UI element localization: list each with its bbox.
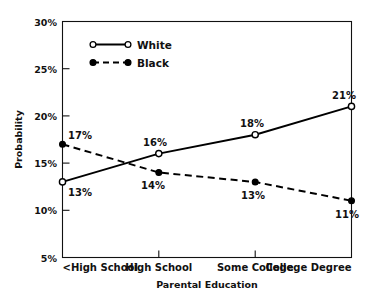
- legend-marker-white-right: [125, 42, 131, 48]
- x-axis-ticks: [159, 251, 255, 258]
- line-chart: 30% 25% 20% 15% 10% 5% Probability <High…: [0, 0, 389, 308]
- series-black-marker-1: [156, 170, 162, 176]
- value-label-black-2: 13%: [241, 190, 265, 201]
- series-black-marker-0: [60, 141, 66, 147]
- y-axis-title: Probability: [13, 109, 24, 168]
- y-tick-label-5: 5%: [41, 253, 58, 264]
- x-category-label-1: High School: [125, 262, 192, 273]
- x-category-label-3: College Degree: [265, 262, 351, 273]
- value-label-white-3: 21%: [332, 90, 356, 101]
- value-label-black-0: 17%: [68, 130, 92, 141]
- legend-label-white: White: [137, 39, 172, 51]
- series-black-line: [63, 144, 352, 201]
- value-label-black-1: 14%: [141, 180, 165, 191]
- series-white: [59, 103, 354, 185]
- legend-entry-white[interactable]: White: [90, 39, 172, 51]
- chart-canvas: 30% 25% 20% 15% 10% 5% Probability <High…: [0, 0, 389, 308]
- value-label-white-1: 16%: [143, 137, 167, 148]
- legend-marker-black-right: [125, 60, 131, 66]
- y-tick-label-20: 20%: [34, 111, 57, 122]
- y-tick-label-30: 30%: [34, 17, 57, 28]
- series-black: [60, 141, 355, 203]
- chart-legend: White Black: [90, 39, 172, 69]
- series-black-marker-2: [252, 179, 258, 185]
- series-black-marker-3: [349, 198, 355, 204]
- y-tick-label-10: 10%: [34, 205, 57, 216]
- value-label-black-3: 11%: [335, 209, 359, 220]
- y-tick-label-25: 25%: [34, 64, 57, 75]
- plot-frame: [63, 22, 352, 258]
- series-white-line: [63, 106, 352, 181]
- legend-marker-white-left: [90, 42, 96, 48]
- series-white-marker-2: [252, 132, 258, 138]
- value-label-white-2: 18%: [240, 118, 264, 129]
- legend-label-black: Black: [137, 57, 170, 69]
- y-tick-label-15: 15%: [34, 158, 57, 169]
- legend-entry-black[interactable]: Black: [90, 57, 170, 69]
- legend-marker-black-left: [90, 60, 96, 66]
- series-white-marker-1: [156, 151, 162, 157]
- x-axis-title: Parental Education: [156, 279, 258, 290]
- series-white-marker-0: [59, 179, 65, 185]
- value-label-white-0: 13%: [68, 187, 92, 198]
- series-white-marker-3: [348, 103, 354, 109]
